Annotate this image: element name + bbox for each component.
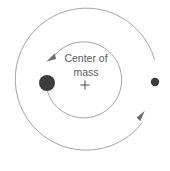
primary-star-body (39, 75, 55, 91)
binary-orbit-diagram: Center of mass (0, 0, 170, 171)
center-of-mass-label-line-2: mass (73, 66, 98, 78)
outer-orbit-arrowhead-icon (137, 111, 145, 122)
inner-orbit-arrowhead-icon (46, 54, 56, 62)
outer-orbit-path (15, 8, 154, 150)
center-of-mass-label-line-1: Center of (64, 52, 107, 64)
companion-star-body (151, 78, 159, 86)
center-of-mass-marker (81, 81, 90, 90)
orbit-diagram-canvas: Center of mass (0, 0, 170, 171)
